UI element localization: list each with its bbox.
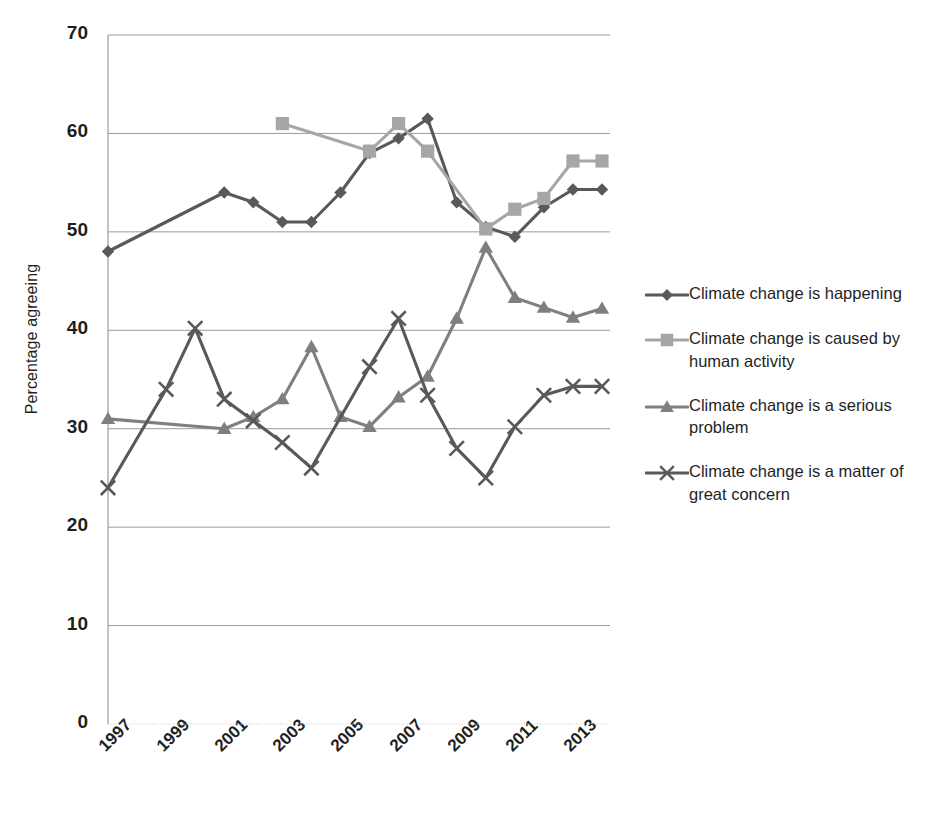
data-point-square: [276, 117, 289, 130]
legend-item-1[interactable]: Climate change is caused by human activi…: [645, 327, 925, 373]
legend-item-2[interactable]: Climate change is a serious problem: [645, 394, 925, 440]
data-point-triangle: [450, 311, 464, 323]
series-line: [108, 319, 602, 488]
data-point-square: [508, 203, 521, 216]
data-point-square: [421, 145, 434, 158]
data-point-square: [537, 192, 550, 205]
data-point-square: [566, 154, 579, 167]
data-point-triangle: [479, 240, 493, 252]
series-0: [102, 112, 608, 257]
data-point-diamond: [661, 289, 673, 301]
legend-item-3[interactable]: Climate change is a matter of great conc…: [645, 460, 925, 506]
data-point-square: [595, 154, 608, 167]
data-point-square: [392, 117, 405, 130]
legend-label-0: Climate change is happening: [689, 282, 902, 305]
data-point-cross: [479, 471, 493, 485]
data-point-diamond: [102, 245, 114, 257]
legend-label-1: Climate change is caused by human activi…: [689, 327, 915, 373]
data-point-square: [363, 145, 376, 158]
data-point-diamond: [218, 186, 230, 198]
series-3: [101, 311, 609, 495]
chart-legend: Climate change is happeningClimate chang…: [645, 282, 925, 527]
chart-container: Percentage agreeing 706050403020100 1997…: [0, 0, 925, 829]
data-point-triangle: [304, 340, 318, 352]
legend-label-3: Climate change is a matter of great conc…: [689, 460, 915, 506]
legend-marker-diamond-icon: [645, 284, 689, 306]
data-point-square: [479, 222, 492, 235]
legend-marker-cross-icon: [645, 462, 689, 484]
series-1: [276, 117, 609, 236]
data-point-diamond: [596, 183, 608, 195]
legend-item-0[interactable]: Climate change is happening: [645, 282, 925, 306]
legend-marker-square-icon: [645, 329, 689, 351]
data-point-triangle: [275, 392, 289, 404]
series-line: [108, 248, 602, 429]
data-point-triangle: [595, 301, 609, 313]
legend-label-2: Climate change is a serious problem: [689, 394, 915, 440]
data-point-square: [661, 334, 674, 347]
data-point-cross: [275, 435, 289, 449]
data-point-cross: [420, 388, 434, 402]
data-point-cross: [362, 360, 376, 374]
data-point-cross: [159, 382, 173, 396]
data-point-cross: [391, 311, 405, 325]
legend-marker-triangle-icon: [645, 396, 689, 418]
data-point-cross: [304, 461, 318, 475]
data-point-triangle: [508, 291, 522, 303]
data-point-cross: [188, 321, 202, 335]
data-point-cross: [217, 392, 231, 406]
data-point-cross: [450, 441, 464, 455]
data-point-cross: [508, 420, 522, 434]
series-line: [282, 124, 602, 229]
